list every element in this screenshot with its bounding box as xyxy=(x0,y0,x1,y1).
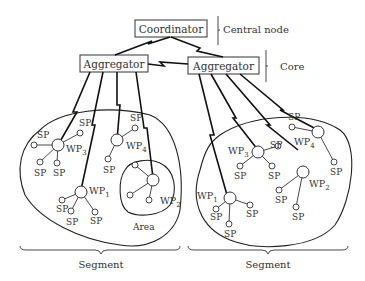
segment-right-brace: Segment xyxy=(188,246,348,270)
svg-text:SP: SP xyxy=(270,140,282,150)
svg-text:WP3: WP3 xyxy=(228,145,249,159)
svg-text:WP1: WP1 xyxy=(197,190,218,204)
svg-text:SP: SP xyxy=(56,204,68,214)
svg-text:SP: SP xyxy=(330,167,342,177)
svg-text:SP: SP xyxy=(66,217,78,227)
segment-right-outline xyxy=(196,117,352,246)
svg-text:SP: SP xyxy=(53,168,65,178)
svg-text:Segment: Segment xyxy=(78,259,123,270)
segment-left-brace: Segment xyxy=(20,246,180,270)
svg-text:WP4: WP4 xyxy=(294,136,315,150)
svg-text:SP: SP xyxy=(224,229,236,239)
svg-text:SP: SP xyxy=(234,171,246,181)
right-wp4-cluster: SP SP WP4 xyxy=(288,112,342,177)
svg-text:WP1: WP1 xyxy=(89,185,110,199)
svg-text:SP: SP xyxy=(90,216,102,226)
coordinator-node: Coordinator xyxy=(135,20,207,37)
svg-text:Coordinator: Coordinator xyxy=(139,23,204,35)
svg-text:Central node: Central node xyxy=(223,24,289,35)
svg-text:SP: SP xyxy=(288,112,300,122)
svg-text:WP2: WP2 xyxy=(309,178,330,192)
network-hierarchy-diagram: Coordinator Aggregator Aggregator Centra… xyxy=(0,0,365,281)
core-bracket: Core xyxy=(266,50,304,82)
svg-text:WP4: WP4 xyxy=(126,140,147,154)
left-wp2-cluster: WP2 xyxy=(127,162,181,209)
svg-text:SP: SP xyxy=(292,212,304,222)
central-node-bracket: Central node xyxy=(218,16,289,45)
svg-text:SP: SP xyxy=(275,195,287,205)
svg-text:SP: SP xyxy=(37,130,49,140)
right-wp2-cluster: SP SP WP2 xyxy=(275,166,330,222)
svg-text:SP: SP xyxy=(103,165,115,175)
area-label: Area xyxy=(132,222,155,232)
svg-text:SP: SP xyxy=(34,168,46,178)
svg-text:WP2: WP2 xyxy=(160,195,181,209)
left-wp1-cluster: SP SP SP WP1 xyxy=(56,185,110,227)
aggregator-right-node: Aggregator xyxy=(188,57,259,74)
right-wp1-cluster: SP SP SP WP1 xyxy=(197,190,258,239)
aggregator-left-node: Aggregator xyxy=(80,55,148,72)
svg-text:SP: SP xyxy=(246,209,258,219)
left-wp3-cluster: SP SP SP SP WP3 xyxy=(31,118,91,178)
svg-text:SP: SP xyxy=(130,113,142,123)
svg-text:SP: SP xyxy=(79,118,91,128)
svg-text:SP: SP xyxy=(268,171,280,181)
left-wp4-cluster: SP SP WP4 xyxy=(103,113,147,175)
svg-text:Aggregator: Aggregator xyxy=(83,58,146,70)
svg-text:Aggregator: Aggregator xyxy=(192,60,255,72)
svg-text:Segment: Segment xyxy=(245,259,290,270)
area-outline xyxy=(120,160,174,215)
svg-text:WP3: WP3 xyxy=(66,143,87,157)
svg-text:Core: Core xyxy=(280,61,304,72)
svg-text:SP: SP xyxy=(210,212,222,222)
